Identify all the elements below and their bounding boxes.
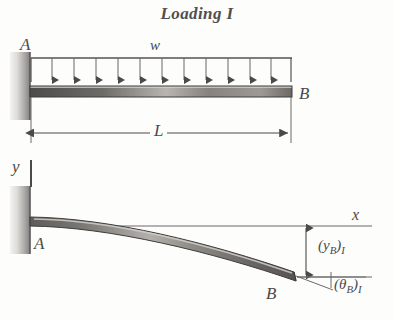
deflected-beam-shape xyxy=(30,217,296,281)
label-B-top: B xyxy=(299,85,309,102)
bottom-diagram-group xyxy=(10,160,372,290)
label-A-bottom: A xyxy=(34,235,44,252)
figure-vector-canvas xyxy=(0,0,394,320)
sub-I: I xyxy=(358,283,362,295)
label-B-bottom: B xyxy=(266,285,276,302)
sub-B: B xyxy=(346,283,353,295)
wall-support-top xyxy=(10,52,30,120)
var-y: y xyxy=(323,237,330,253)
wall-support-bottom xyxy=(10,186,30,254)
load-arrows-group xyxy=(31,58,291,82)
label-load-w: w xyxy=(150,38,160,53)
loading-case-figure: Loading I xyxy=(0,0,394,320)
label-y-axis: y xyxy=(12,158,20,175)
label-x-axis: x xyxy=(352,207,359,223)
label-length-L: L xyxy=(150,122,167,139)
label-tip-slope: (θB)I xyxy=(334,277,362,295)
label-A-top: A xyxy=(20,36,30,53)
slope-wedge-lower xyxy=(296,276,333,290)
sub-I: I xyxy=(341,244,345,256)
label-tip-deflection: (yB)I xyxy=(318,238,345,256)
